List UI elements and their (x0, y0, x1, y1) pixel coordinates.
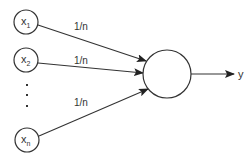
ellipsis-dots (26, 84, 28, 107)
input-node-x1: x1 (14, 10, 38, 34)
edge-x1 (38, 25, 146, 61)
input-node-xn: xn (15, 128, 39, 152)
summation-node (143, 50, 191, 98)
weight-label-x1: 1/n (74, 21, 88, 32)
edge-x2 (38, 63, 143, 73)
edge-xn (39, 89, 148, 136)
weight-label-x2: 1/n (74, 55, 88, 66)
output-label-y: y (238, 68, 244, 80)
input-node-x2: x2 (14, 48, 38, 72)
weight-label-xn: 1/n (74, 97, 88, 108)
neuron-diagram: x1 x2 xn 1/n 1/n 1/n y (0, 0, 252, 153)
